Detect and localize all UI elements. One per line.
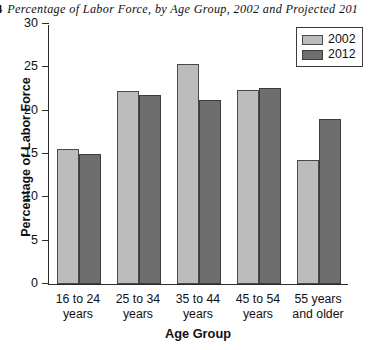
bar-2002 (117, 91, 139, 284)
bar-group (169, 25, 229, 284)
y-axis-tick: 20 (42, 110, 49, 111)
y-axis-tick: 5 (42, 240, 49, 241)
bar-2012 (319, 119, 341, 284)
bar-2002 (237, 90, 259, 284)
y-axis-tick-label: 10 (24, 189, 38, 204)
bar-chart: Percentage of Labor Force 051015202530 1… (0, 0, 383, 350)
y-axis-tick-label: 15 (24, 146, 38, 161)
y-axis-tick: 10 (42, 196, 49, 197)
bar-2002 (177, 64, 199, 284)
x-axis-category-label: 16 to 24 years (48, 292, 108, 321)
y-axis-tick-label: 30 (24, 16, 38, 31)
y-axis-tick: 0 (42, 283, 49, 284)
x-axis-category-label: 45 to 54 years (228, 292, 288, 321)
y-axis-tick-label: 20 (24, 103, 38, 118)
legend-item-2002: 2002 (302, 32, 356, 47)
y-axis-tick: 25 (42, 66, 49, 67)
bar-2012 (139, 95, 161, 284)
y-axis-tick-label: 5 (31, 233, 38, 248)
legend-label-2002: 2002 (328, 33, 356, 46)
bar-group (229, 25, 289, 284)
bar-2002 (297, 160, 319, 284)
bar-2012 (199, 100, 221, 284)
legend-item-2012: 2012 (302, 47, 356, 62)
chart-legend: 20022012 (296, 27, 363, 67)
bar-2012 (259, 88, 281, 284)
x-axis-category-label: 35 to 44 years (168, 292, 228, 321)
legend-swatch-2002 (302, 35, 323, 45)
x-axis-category-label: 25 to 34 years (108, 292, 168, 321)
legend-label-2012: 2012 (328, 48, 356, 61)
y-axis-tick: 30 (42, 23, 49, 24)
y-axis-tick-label: 0 (31, 276, 38, 291)
bar-group (109, 25, 169, 284)
y-axis-tick-label: 25 (24, 59, 38, 74)
bar-2012 (79, 154, 101, 284)
x-axis-title: Age Group (48, 326, 348, 341)
bar-2002 (57, 149, 79, 284)
x-axis-category-label: 55 years and older (288, 292, 348, 321)
bar-group (49, 25, 109, 284)
y-axis-tick: 15 (42, 153, 49, 154)
legend-swatch-2012 (302, 50, 323, 60)
